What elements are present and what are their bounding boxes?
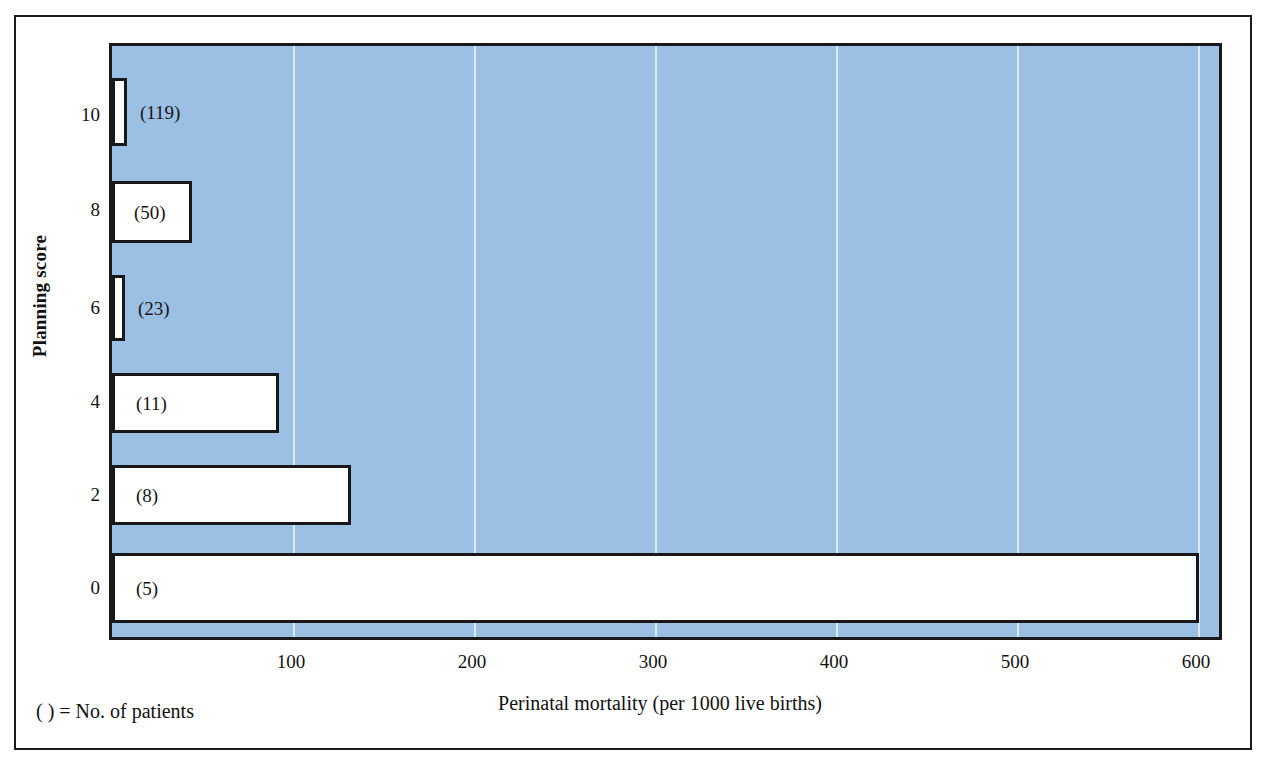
x-tick-100: 100 [251,651,331,673]
gridline-600 [1198,46,1200,637]
x-tick-500: 500 [975,651,1055,673]
gridline-200 [474,46,476,637]
x-axis-title: Perinatal mortality (per 1000 live birth… [400,692,920,715]
x-tick-300: 300 [613,651,693,673]
gridline-400 [836,46,838,637]
bar-planning-score-6[interactable] [112,275,125,341]
x-tick-200: 200 [432,651,512,673]
footnote-legend: ( ) = No. of patients [36,700,194,723]
bar-label-planning-score-10: (119) [140,102,180,124]
y-tick-10: 10 [60,105,100,124]
bar-planning-score-10[interactable] [112,78,127,146]
x-tick-400: 400 [794,651,874,673]
bar-label-planning-score-6: (23) [138,298,170,320]
gridline-100 [293,46,295,637]
y-tick-8: 8 [60,200,100,219]
y-axis-tick-labels: 10 8 6 4 2 0 [45,0,100,769]
y-tick-0: 0 [60,578,100,597]
bar-planning-score-0[interactable] [112,553,1199,623]
y-tick-6: 6 [60,298,100,317]
gridline-300 [655,46,657,637]
figure-canvas: Planning score 10 8 6 4 2 0 (119) (50) (… [0,0,1270,769]
bar-label-planning-score-4: (11) [136,393,167,415]
x-tick-600: 600 [1156,651,1236,673]
y-tick-4: 4 [60,392,100,411]
bar-label-planning-score-8: (50) [134,202,166,224]
bar-label-planning-score-0: (5) [136,578,158,600]
y-tick-2: 2 [60,485,100,504]
plot-area: (119) (50) (23) (11) (8) (5) [109,43,1222,640]
bar-label-planning-score-2: (8) [136,485,158,507]
gridline-500 [1017,46,1019,637]
